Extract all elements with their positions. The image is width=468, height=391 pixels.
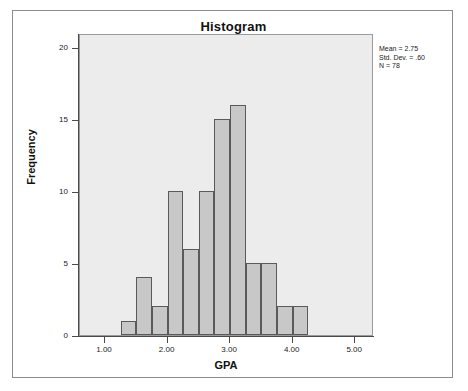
histogram-bar bbox=[199, 191, 215, 335]
y-axis-tick-label-holder: 0 bbox=[23, 336, 68, 346]
histogram-chart-card: Histogram 05101520 Frequency 1.002.003.0… bbox=[12, 10, 453, 378]
y-axis-tick bbox=[72, 48, 78, 49]
histogram-bar bbox=[136, 277, 152, 335]
y-axis-tick-label: 5 bbox=[28, 259, 68, 268]
histogram-bar bbox=[152, 306, 168, 335]
y-axis-tick-label-holder: 20 bbox=[23, 48, 68, 58]
y-axis-tick-label: 0 bbox=[28, 331, 68, 340]
y-axis-tick bbox=[72, 264, 78, 265]
histogram-bar bbox=[246, 263, 262, 335]
plot-area bbox=[80, 35, 372, 335]
x-axis-title: GPA bbox=[79, 359, 373, 371]
statistics-annotation: Mean = 2.75 Std. Dev. = .60 N = 78 bbox=[379, 45, 425, 71]
plot-frame bbox=[79, 34, 373, 336]
x-axis-tick-label: 1.00 bbox=[84, 345, 124, 354]
y-axis-tick bbox=[72, 120, 78, 121]
x-axis-tick bbox=[167, 337, 168, 343]
histogram-bar bbox=[121, 321, 137, 335]
histogram-bar bbox=[230, 105, 246, 335]
y-axis-title: Frequency bbox=[25, 87, 37, 227]
y-axis-tick bbox=[72, 192, 78, 193]
histogram-bar bbox=[261, 263, 277, 335]
stat-std-dev: Std. Dev. = .60 bbox=[379, 54, 425, 63]
histogram-bar bbox=[293, 306, 309, 335]
x-axis-tick bbox=[229, 337, 230, 343]
histogram-bar bbox=[183, 249, 199, 335]
x-axis-tick-label: 2.00 bbox=[147, 345, 187, 354]
x-axis-tick-label: 4.00 bbox=[272, 345, 312, 354]
histogram-bar bbox=[214, 119, 230, 335]
x-axis-tick-label: 5.00 bbox=[334, 345, 374, 354]
histogram-bar bbox=[168, 191, 184, 335]
y-axis-tick-label-holder: 5 bbox=[23, 264, 68, 274]
x-axis-tick bbox=[354, 337, 355, 343]
x-axis-line bbox=[78, 336, 374, 337]
stat-n: N = 78 bbox=[379, 62, 425, 71]
x-axis-tick-label: 3.00 bbox=[209, 345, 249, 354]
stat-mean: Mean = 2.75 bbox=[379, 45, 425, 54]
chart-title: Histogram bbox=[13, 19, 454, 34]
y-axis-tick-label: 20 bbox=[28, 43, 68, 52]
y-axis-line bbox=[78, 34, 79, 337]
x-axis-tick bbox=[104, 337, 105, 343]
histogram-bar bbox=[277, 306, 293, 335]
x-axis-tick bbox=[292, 337, 293, 343]
